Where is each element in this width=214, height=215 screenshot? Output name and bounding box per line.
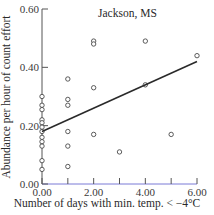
data-point bbox=[91, 132, 95, 136]
data-point bbox=[40, 107, 44, 111]
data-point bbox=[40, 125, 44, 129]
data-point bbox=[40, 103, 44, 107]
y-tick-label: 0.20 bbox=[20, 120, 40, 132]
data-point bbox=[91, 86, 95, 90]
data-point bbox=[195, 53, 199, 57]
chart-title: Jackson, MS bbox=[98, 7, 157, 20]
data-point bbox=[66, 164, 70, 168]
data-point bbox=[40, 135, 44, 139]
scatter-chart: 0.000.200.400.600.002.004.006.00 Jackson… bbox=[0, 0, 214, 215]
y-tick-label: 0.60 bbox=[20, 3, 40, 15]
regression-line bbox=[42, 62, 197, 132]
data-point bbox=[40, 144, 44, 148]
data-point bbox=[40, 167, 44, 171]
data-point bbox=[66, 97, 70, 101]
y-tick-label: 0.40 bbox=[20, 61, 40, 73]
y-axis-title: Abundance per hour of count effort bbox=[0, 15, 13, 179]
data-point bbox=[40, 140, 44, 144]
data-point bbox=[66, 129, 70, 133]
data-point bbox=[40, 158, 44, 162]
x-axis-title: Number of days with min. temp. < −4°C bbox=[14, 197, 201, 210]
data-point bbox=[40, 94, 44, 98]
data-point bbox=[91, 42, 95, 46]
data-point bbox=[117, 150, 121, 154]
axis-ticks: 0.000.200.400.600.002.004.006.00 bbox=[20, 3, 207, 198]
data-point bbox=[40, 121, 44, 125]
data-point bbox=[66, 144, 70, 148]
data-points bbox=[40, 39, 199, 172]
data-point bbox=[169, 132, 173, 136]
data-point bbox=[143, 39, 147, 43]
regression-line-path bbox=[42, 62, 197, 132]
data-point bbox=[66, 77, 70, 81]
data-point bbox=[66, 103, 70, 107]
